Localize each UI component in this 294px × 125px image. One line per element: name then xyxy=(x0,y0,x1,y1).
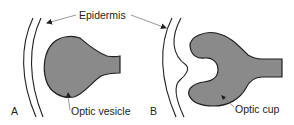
epidermis-arrow-a xyxy=(47,15,76,23)
epidermis-outer-line-a xyxy=(24,18,36,117)
panel-b-label: B xyxy=(150,105,157,117)
epidermis-inner-line-a xyxy=(31,18,43,117)
optic-cup-label: Optic cup xyxy=(235,103,280,115)
epidermis-label: Epidermis xyxy=(79,9,126,21)
optic-vesicle-shape xyxy=(44,36,120,97)
epidermis-inner-line-b xyxy=(174,18,188,117)
optic-vesicle-label: Optic vesicle xyxy=(71,105,131,117)
epidermis-arrow-b xyxy=(131,15,166,28)
epidermis-outer-line-b xyxy=(163,18,176,117)
optic-development-diagram: Epidermis Optic vesicle A Optic cup B xyxy=(0,0,294,125)
panel-a-label: A xyxy=(11,105,18,117)
optic-cup-shape xyxy=(189,33,282,106)
optic-vesicle-leader xyxy=(68,96,70,110)
